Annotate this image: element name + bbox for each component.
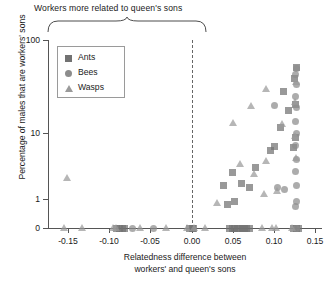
x-tick-015 bbox=[315, 228, 316, 233]
x-tick-label-neg005: -0.05 bbox=[130, 236, 170, 246]
data-point-wasps bbox=[213, 199, 221, 206]
data-point-ants bbox=[224, 201, 231, 208]
y-axis-title: Percentage of males that are workers' so… bbox=[17, 7, 27, 187]
data-point-bees bbox=[293, 198, 300, 205]
data-point-ants bbox=[280, 88, 287, 95]
data-point-wasps bbox=[78, 224, 86, 231]
y-axis-title-wrapper: Percentage of males that are workers' so… bbox=[17, 7, 27, 187]
data-point-wasps bbox=[292, 154, 300, 161]
bracket-annotation-label: Workers more related to queen's sons bbox=[34, 3, 182, 13]
data-point-ants bbox=[231, 198, 238, 205]
data-point-wasps bbox=[291, 98, 299, 105]
data-point-bees bbox=[293, 65, 300, 72]
x-tick-label-015: 0.15 bbox=[295, 236, 324, 246]
data-point-wasps bbox=[247, 102, 255, 109]
triangle-marker-icon bbox=[65, 85, 73, 92]
data-point-bees bbox=[293, 182, 300, 189]
data-point-wasps bbox=[292, 78, 300, 85]
data-point-wasps bbox=[273, 187, 281, 194]
data-point-ants bbox=[246, 184, 253, 191]
data-point-bees bbox=[292, 118, 299, 125]
square-marker-icon bbox=[65, 55, 72, 62]
data-point-wasps bbox=[250, 170, 258, 177]
y-tick-label-1: 1 bbox=[0, 194, 40, 204]
data-point-wasps bbox=[63, 174, 71, 181]
x-axis-title-line1: Relatedness difference between bbox=[48, 252, 322, 264]
legend-label-bees: Bees bbox=[78, 67, 98, 77]
data-point-wasps bbox=[262, 85, 270, 92]
data-point-ants bbox=[271, 143, 278, 150]
x-tick-label-neg010: -0.10 bbox=[89, 236, 129, 246]
circle-marker-icon bbox=[65, 70, 72, 77]
x-axis-title: Relatedness difference between workers' … bbox=[48, 252, 322, 275]
data-point-bees bbox=[292, 168, 299, 175]
data-point-ants bbox=[121, 225, 128, 232]
curly-brace-icon bbox=[46, 17, 208, 33]
data-point-wasps bbox=[201, 224, 209, 231]
data-point-wasps bbox=[272, 224, 280, 231]
data-point-wasps bbox=[278, 120, 286, 127]
data-point-ants bbox=[246, 225, 253, 232]
data-point-wasps bbox=[190, 224, 198, 231]
x-tick-label-000: 0.00 bbox=[172, 236, 212, 246]
x-tick-label-010: 0.10 bbox=[254, 236, 294, 246]
data-point-bees bbox=[281, 186, 288, 193]
scatter-plot-figure: Workers more related to queen's sons 100… bbox=[0, 0, 324, 283]
data-point-wasps bbox=[229, 119, 237, 126]
x-axis-title-line2: workers' and queen's sons bbox=[48, 264, 322, 276]
data-point-wasps bbox=[162, 224, 170, 231]
data-point-wasps bbox=[291, 132, 299, 139]
y-tick-label-0: 0 bbox=[0, 223, 40, 233]
data-point-ants bbox=[238, 180, 245, 187]
data-point-ants bbox=[229, 169, 236, 176]
data-point-bees bbox=[271, 102, 278, 109]
data-point-wasps bbox=[136, 224, 144, 231]
data-point-bees bbox=[293, 104, 300, 111]
data-point-wasps bbox=[258, 224, 266, 231]
data-point-wasps bbox=[288, 224, 296, 231]
legend-box: Ants Bees Wasps bbox=[57, 46, 125, 98]
data-point-wasps bbox=[112, 224, 120, 231]
data-point-ants bbox=[220, 182, 227, 189]
y-tick-0 bbox=[43, 228, 48, 229]
data-point-wasps bbox=[236, 160, 244, 167]
x-tick-neg015 bbox=[68, 228, 69, 233]
data-point-wasps bbox=[60, 224, 68, 231]
legend-label-ants: Ants bbox=[78, 52, 95, 62]
data-point-bees bbox=[292, 142, 299, 149]
x-tick-label-neg015: -0.15 bbox=[48, 236, 88, 246]
data-point-bees bbox=[150, 225, 157, 232]
legend-label-wasps: Wasps bbox=[78, 82, 104, 92]
data-point-wasps bbox=[260, 190, 268, 197]
x-tick-label-005: 0.05 bbox=[213, 236, 253, 246]
data-point-wasps bbox=[262, 157, 270, 164]
